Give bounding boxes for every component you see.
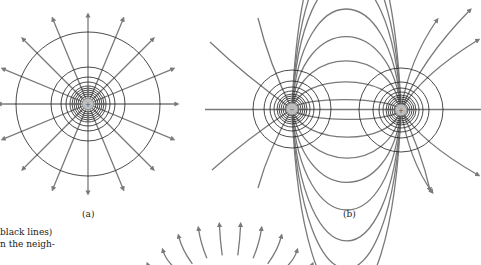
field-line	[292, 0, 401, 110]
field-line	[268, 236, 282, 264]
field-line	[210, 42, 292, 109]
panel-c-partial-fan	[126, 224, 334, 265]
svg-text:+: +	[398, 107, 404, 115]
field-line	[219, 224, 222, 255]
svg-text:+: +	[85, 101, 91, 109]
panel-b-dipole: −+	[205, 0, 481, 265]
field-line	[292, 0, 401, 110]
field-line	[163, 250, 179, 265]
panel-b-label: (b)	[343, 209, 356, 219]
field-line	[198, 228, 206, 258]
field-line	[281, 250, 297, 265]
field-line	[401, 40, 478, 110]
field-line	[253, 228, 261, 258]
svg-text:−: −	[289, 106, 295, 114]
field-line	[179, 236, 193, 264]
panel-a-label: (a)	[82, 209, 94, 219]
body-text-line-1: black lines)	[0, 227, 52, 237]
panel-a-point-charge: +	[0, 15, 177, 193]
field-line	[238, 224, 241, 255]
body-text-fragment: black lines) n the neigh-	[0, 226, 55, 250]
body-text-line-2: n the neigh-	[0, 239, 55, 249]
field-line	[292, 0, 401, 110]
electric-field-figure: + −+	[0, 0, 481, 265]
